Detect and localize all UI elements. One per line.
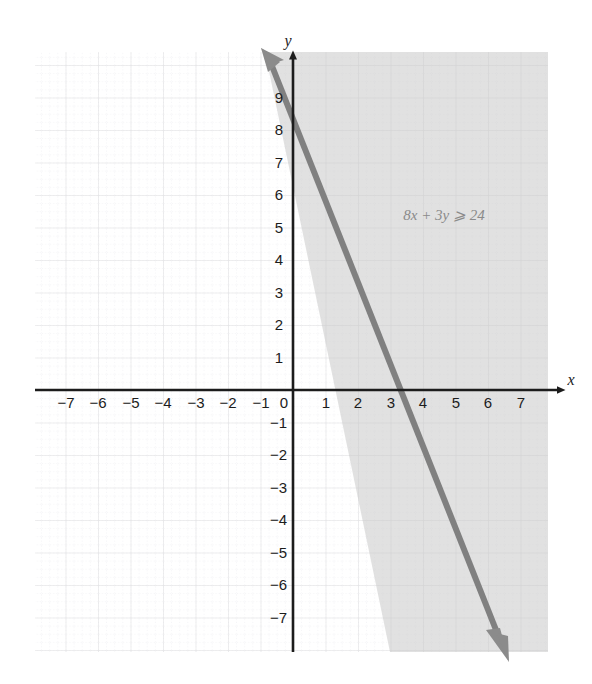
y-tick-8: 8 <box>275 121 283 138</box>
x-tick--6: −6 <box>89 394 106 411</box>
coordinate-plane-svg: x y −7 −6 −5 −4 −3 −2 −1 0 1 2 3 4 5 6 7… <box>0 0 592 684</box>
y-tick-4: 4 <box>275 251 283 268</box>
inequality-graph-figure: x y −7 −6 −5 −4 −3 −2 −1 0 1 2 3 4 5 6 7… <box>0 0 592 684</box>
y-tick-3: 3 <box>275 284 283 301</box>
y-tick--1: −1 <box>270 414 287 431</box>
x-axis-name: x <box>566 371 574 388</box>
x-tick--2: −2 <box>219 394 236 411</box>
y-axis-name: y <box>282 32 292 50</box>
x-tick--5: −5 <box>122 394 139 411</box>
y-tick--3: −3 <box>270 479 287 496</box>
x-tick--7: −7 <box>57 394 74 411</box>
y-tick--2: −2 <box>270 446 287 463</box>
x-tick-6: 6 <box>484 394 492 411</box>
y-tick-5: 5 <box>275 219 283 236</box>
x-tick-2: 2 <box>354 394 362 411</box>
y-tick--7: −7 <box>270 609 287 626</box>
inequality-annotation: 8x + 3y ⩾ 24 <box>403 207 485 223</box>
y-tick--4: −4 <box>270 511 287 528</box>
y-tick--6: −6 <box>270 576 287 593</box>
y-tick-7: 7 <box>275 154 283 171</box>
x-tick-5: 5 <box>452 394 460 411</box>
y-tick-9: 9 <box>275 89 283 106</box>
y-tick-labels-positive: 1 2 3 4 5 6 7 8 9 <box>275 89 283 366</box>
x-tick-4: 4 <box>419 394 427 411</box>
y-tick--5: −5 <box>270 544 287 561</box>
x-tick-1: 1 <box>322 394 330 411</box>
x-tick-3: 3 <box>387 394 395 411</box>
y-tick-2: 2 <box>275 316 283 333</box>
y-tick-6: 6 <box>275 186 283 203</box>
x-tick--3: −3 <box>187 394 204 411</box>
x-tick--4: −4 <box>154 394 171 411</box>
x-tick-7: 7 <box>517 394 525 411</box>
origin-label: 0 <box>280 394 288 411</box>
y-tick-1: 1 <box>275 349 283 366</box>
x-tick--1: −1 <box>252 394 269 411</box>
